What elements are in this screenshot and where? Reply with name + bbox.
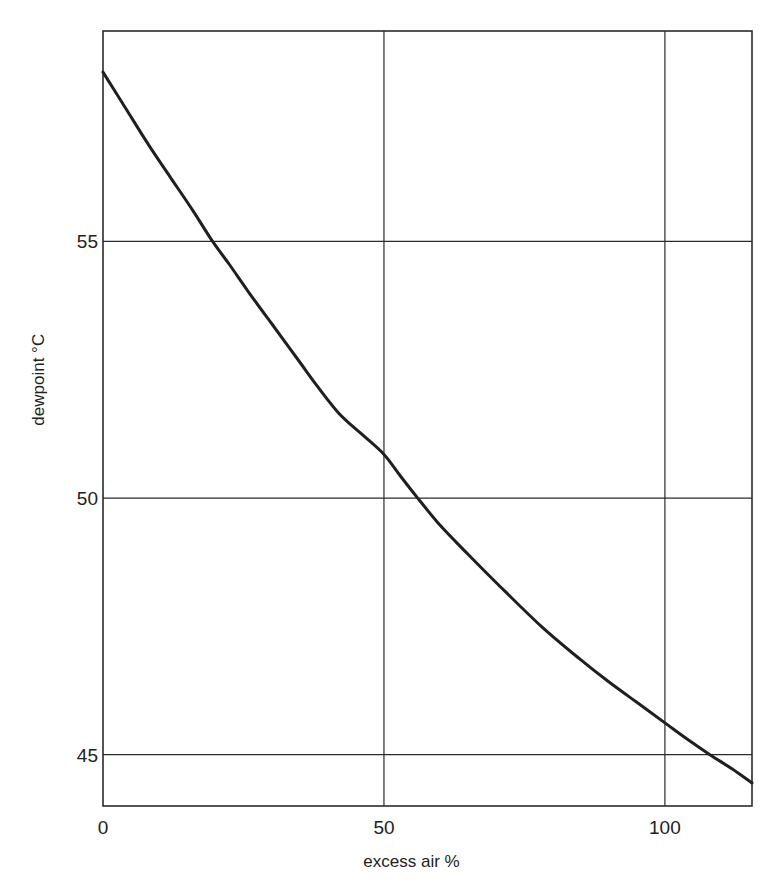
y-tick-label-50: 50 <box>77 488 98 509</box>
y-tick-label-55: 55 <box>77 231 98 252</box>
y-tick-label-45: 45 <box>77 745 98 766</box>
plot-frame <box>103 31 752 806</box>
y-axis-label: dewpoint °C <box>29 334 48 426</box>
x-tick-label-100: 100 <box>649 817 681 838</box>
x-tick-label-50: 50 <box>373 817 394 838</box>
dewpoint-chart: 050100455055 excess air % dewpoint °C <box>0 0 780 893</box>
tick-labels: 050100455055 <box>77 231 681 838</box>
grid-layer <box>103 31 752 806</box>
x-axis-label: excess air % <box>363 852 459 871</box>
x-tick-label-0: 0 <box>98 817 109 838</box>
dewpoint-curve <box>103 72 752 783</box>
